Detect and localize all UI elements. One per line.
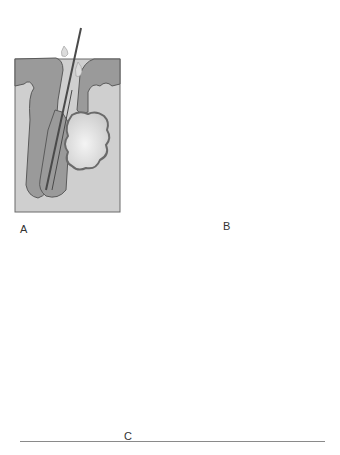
diagram-canvas bbox=[0, 0, 340, 455]
panel-a bbox=[15, 28, 120, 212]
bottom-divider bbox=[20, 441, 325, 442]
sebum-droplet bbox=[61, 46, 68, 57]
panel-label-b: B bbox=[223, 220, 230, 232]
panel-label-a: A bbox=[20, 223, 27, 235]
